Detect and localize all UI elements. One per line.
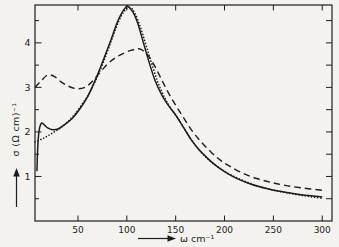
- x-tick-label: 250: [265, 225, 282, 235]
- curve-solid: [37, 6, 322, 197]
- x-tick-label: 100: [118, 225, 135, 235]
- y-tick-label: 2: [24, 126, 30, 137]
- conductivity-figure: 501001502002503001234 σ (Ω cm)⁻¹ ω cm⁻¹: [0, 0, 339, 247]
- curve-dotted: [35, 7, 322, 198]
- x-tick-label: 200: [216, 225, 233, 235]
- y-tick-label: 3: [24, 82, 30, 93]
- conductivity-chart: 501001502002503001234: [0, 0, 339, 247]
- right-arrow-icon: [138, 234, 176, 243]
- y-tick-label: 1: [24, 171, 30, 182]
- x-axis-label-text: ω cm⁻¹: [180, 233, 214, 244]
- x-tick-label: 300: [314, 225, 331, 235]
- y-axis-label: σ (Ω cm)⁻¹: [10, 88, 21, 172]
- x-axis-label: ω cm⁻¹: [138, 233, 214, 244]
- plot-frame: [35, 5, 332, 221]
- up-arrow-icon: [12, 168, 21, 208]
- y-tick-label: 4: [24, 37, 30, 48]
- x-tick-label: 50: [72, 225, 84, 235]
